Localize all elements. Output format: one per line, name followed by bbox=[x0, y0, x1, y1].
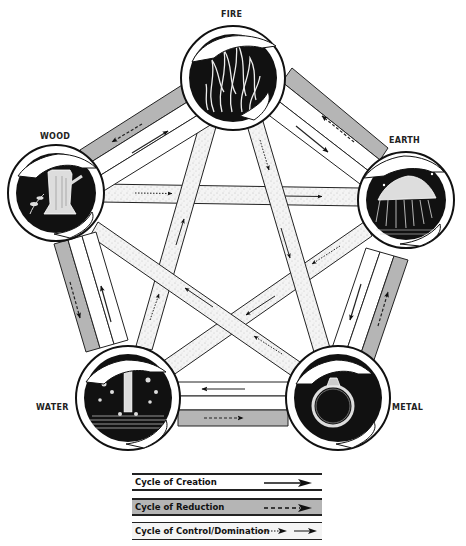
legend-label: Cycle of Control/Domination bbox=[132, 526, 270, 536]
legend-label: Cycle of Reduction bbox=[132, 502, 224, 512]
wood-element-medallion bbox=[8, 145, 104, 241]
metal-label: METAL bbox=[392, 403, 423, 412]
control-band-wood-earth bbox=[100, 184, 360, 206]
edge-metal-water bbox=[178, 382, 288, 426]
wood-label: WOOD bbox=[40, 132, 70, 141]
dotted-solid-arrow-icon bbox=[260, 526, 320, 536]
water-label: WATER bbox=[36, 403, 69, 412]
metal-element-medallion bbox=[286, 346, 390, 450]
legend-item-control: Cycle of Control/Domination bbox=[132, 522, 322, 540]
solid-arrow-icon bbox=[262, 478, 314, 488]
edge-earth-metal bbox=[332, 248, 408, 360]
five-elements-diagram bbox=[0, 0, 466, 546]
legend-item-creation: Cycle of Creation bbox=[132, 473, 322, 491]
legend-item-reduction: Cycle of Reduction bbox=[132, 498, 322, 516]
water-element-medallion bbox=[76, 346, 180, 450]
fire-element-medallion bbox=[181, 26, 285, 130]
control-band-fire-metal bbox=[246, 118, 330, 352]
dashed-arrow-icon bbox=[262, 503, 314, 513]
fire-label: FIRE bbox=[221, 10, 242, 19]
earth-element-medallion bbox=[358, 152, 454, 248]
earth-label: EARTH bbox=[389, 136, 420, 145]
legend-label: Cycle of Creation bbox=[132, 477, 217, 487]
